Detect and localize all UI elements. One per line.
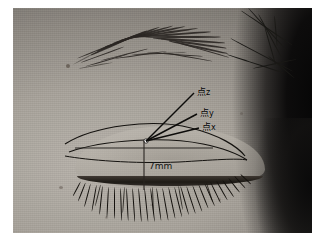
leader-line-point-x — [146, 128, 199, 141]
label-point-x: 点x — [202, 123, 216, 132]
label-point-y: 点y — [200, 109, 214, 118]
label-point-y-kanji: 点 — [200, 108, 209, 118]
clinical-photograph: 点z 点y 点x 7mm — [13, 8, 312, 233]
label-point-z: 点z — [197, 88, 210, 97]
label-point-z-kanji: 点 — [197, 87, 206, 97]
label-measurement-7mm: 7mm — [149, 162, 172, 171]
figure-page: 点z 点y 点x 7mm — [0, 0, 322, 240]
label-point-x-kanji: 点 — [202, 122, 211, 132]
leader-line-point-z — [146, 93, 194, 141]
label-point-z-subscript: z — [206, 88, 210, 97]
crease-line-middle — [69, 140, 247, 160]
label-point-y-subscript: y — [209, 109, 214, 118]
label-point-x-subscript: x — [211, 123, 216, 132]
annotation-overlay — [13, 8, 312, 233]
